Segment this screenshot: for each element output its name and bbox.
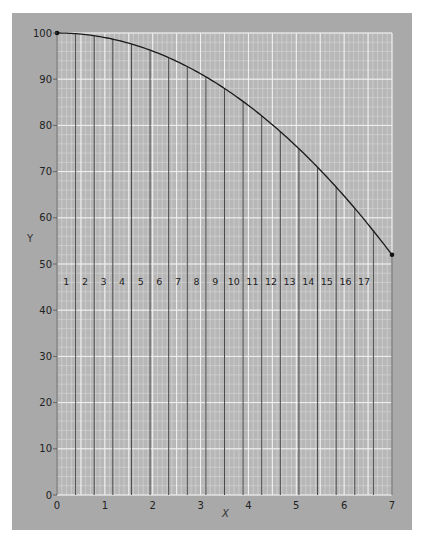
chart: 1234567891011121314151617 01234567 01020… — [0, 0, 423, 539]
y-tick-label: 50 — [39, 259, 52, 270]
strip-label: 15 — [321, 276, 333, 287]
strip-label: 4 — [119, 276, 125, 287]
strip-label: 13 — [284, 276, 296, 287]
x-tick-label: 1 — [102, 500, 108, 511]
y-tick-label: 70 — [39, 166, 52, 177]
y-tick-label: 60 — [39, 212, 52, 223]
y-tick-label: 80 — [39, 120, 52, 131]
strip-label: 2 — [82, 276, 88, 287]
y-tick-label: 100 — [33, 28, 52, 39]
x-axis-title: X — [221, 508, 230, 519]
strip-label: 7 — [175, 276, 181, 287]
x-tick-label: 4 — [245, 500, 251, 511]
strip-label: 11 — [246, 276, 258, 287]
y-tick-label: 10 — [39, 443, 52, 454]
x-tick-label: 5 — [293, 500, 299, 511]
endpoint-marker — [390, 252, 395, 257]
x-tick-label: 2 — [150, 500, 156, 511]
x-tick-label: 3 — [197, 500, 203, 511]
x-tick-label: 6 — [341, 500, 347, 511]
y-axis-title: Y — [26, 233, 34, 244]
strip-label: 12 — [265, 276, 277, 287]
strip-label: 16 — [339, 276, 351, 287]
y-axis-ticks: 0102030405060708090100 — [33, 28, 57, 501]
strip-label: 17 — [358, 276, 370, 287]
strip-label: 9 — [212, 276, 218, 287]
y-tick-label: 30 — [39, 351, 52, 362]
strip-label: 14 — [302, 276, 314, 287]
x-tick-label: 0 — [54, 500, 60, 511]
x-tick-label: 7 — [389, 500, 395, 511]
y-tick-label: 90 — [39, 74, 52, 85]
y-tick-label: 40 — [39, 305, 52, 316]
strip-label: 8 — [194, 276, 200, 287]
strip-label: 3 — [101, 276, 107, 287]
strip-label: 10 — [228, 276, 240, 287]
strip-label: 6 — [156, 276, 162, 287]
strip-label: 1 — [63, 276, 69, 287]
y-tick-label: 0 — [46, 490, 52, 501]
strip-label: 5 — [138, 276, 144, 287]
y-tick-label: 20 — [39, 397, 52, 408]
